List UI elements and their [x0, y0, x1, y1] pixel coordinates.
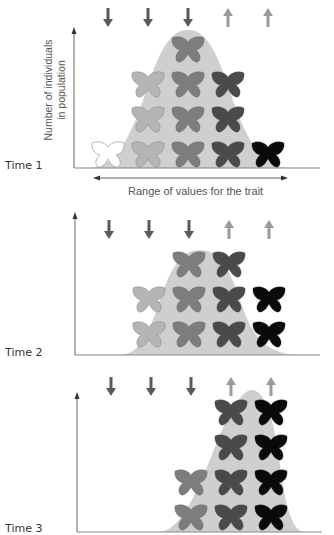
panel-time-3: Time 3: [0, 365, 334, 535]
arrow-down-icon: [186, 377, 196, 396]
y-axis-label-line-1: Number of individuals: [42, 30, 55, 150]
arrow-down-icon: [106, 377, 116, 396]
time-1-label: Time 1: [5, 159, 42, 172]
arrow-down-icon: [184, 220, 194, 239]
butterfly-icon: [253, 287, 285, 312]
arrow-down-icon: [103, 8, 113, 27]
panel-2-graphic: [0, 200, 334, 365]
arrow-down-icon: [144, 220, 154, 239]
arrow-up-icon: [264, 220, 274, 239]
arrow-up-icon: [263, 8, 273, 27]
y-axis-arrowhead-icon: [75, 392, 80, 399]
panel-time-1: Number of individuals in population Time…: [0, 0, 334, 200]
arrow-down-icon: [104, 220, 114, 239]
y-axis-label: Number of individuals in population: [42, 30, 68, 150]
arrow-down-icon: [143, 8, 153, 27]
range-arrow-left-head-icon: [93, 176, 100, 181]
range-arrow-right-head-icon: [281, 176, 288, 181]
x-axis-label: Range of values for the trait: [128, 185, 263, 197]
butterfly-icon: [253, 322, 285, 347]
arrow-up-icon: [223, 8, 233, 27]
panel-3-graphic: [0, 365, 334, 535]
arrow-down-icon: [146, 377, 156, 396]
time-3-label: Time 3: [5, 522, 42, 535]
time-2-label: Time 2: [5, 346, 42, 359]
arrow-up-icon: [266, 377, 276, 396]
panel-time-2: Time 2: [0, 200, 334, 365]
arrow-down-icon: [183, 8, 193, 27]
arrow-up-icon: [226, 377, 236, 396]
arrow-up-icon: [224, 220, 234, 239]
y-axis-label-line-2: in population: [55, 30, 68, 150]
y-axis-arrowhead-icon: [73, 212, 78, 219]
y-axis-arrowhead-icon: [72, 27, 77, 34]
